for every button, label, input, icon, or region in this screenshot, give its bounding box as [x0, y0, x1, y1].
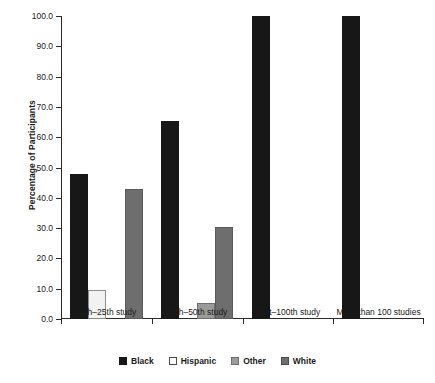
bar-white	[215, 227, 233, 319]
y-tick-label: 90.0	[36, 42, 53, 51]
bar-black	[70, 174, 88, 319]
y-tick-label: 0.0	[41, 315, 53, 324]
x-tick-label: More than 100 studies	[337, 307, 421, 317]
x-group-separator	[152, 319, 153, 324]
y-tick-label: 20.0	[36, 254, 53, 263]
bar-black	[161, 121, 179, 319]
y-tick-label: 80.0	[36, 72, 53, 81]
x-tick-label: 11th–25th study	[76, 307, 136, 317]
y-tick-label: 60.0	[36, 133, 53, 142]
y-tick-label: 70.0	[36, 103, 53, 112]
swatch-black-icon	[119, 357, 127, 365]
x-axis-right-cap	[423, 319, 424, 324]
legend-item-hispanic[interactable]: Hispanic	[169, 356, 216, 366]
x-tick-label: 51st–100th study	[256, 307, 321, 317]
legend-label: Hispanic	[181, 356, 216, 366]
x-group-separator	[243, 319, 244, 324]
legend-label: Other	[243, 356, 266, 366]
x-tick-label: 26th–50th study	[167, 307, 228, 317]
y-tick	[56, 319, 61, 320]
bar-group	[61, 16, 152, 319]
plot-area: 0.010.020.030.040.050.060.070.080.090.01…	[61, 16, 424, 319]
chart-legend: BlackHispanicOtherWhite	[0, 356, 435, 366]
swatch-other-icon	[231, 357, 239, 365]
bar-chart: Percentage of Participants 0.010.020.030…	[0, 0, 435, 383]
y-tick-label: 50.0	[36, 163, 53, 172]
bar-black	[252, 16, 270, 319]
x-axis-left-cap	[61, 319, 62, 324]
bar-black	[342, 16, 360, 319]
y-axis-title: Percentage of Participants	[27, 75, 37, 235]
y-tick-label: 40.0	[36, 194, 53, 203]
y-tick-label: 30.0	[36, 224, 53, 233]
legend-item-other[interactable]: Other	[231, 356, 266, 366]
bar-group	[243, 16, 334, 319]
bar-group	[152, 16, 243, 319]
legend-label: Black	[131, 356, 154, 366]
bar-group	[333, 16, 424, 319]
y-tick-label: 100.0	[32, 12, 53, 21]
x-group-separator	[333, 319, 334, 324]
swatch-hispanic-icon	[169, 357, 177, 365]
legend-item-white[interactable]: White	[281, 356, 316, 366]
bar-white	[125, 189, 143, 319]
legend-label: White	[293, 356, 316, 366]
swatch-white-icon	[281, 357, 289, 365]
y-tick-label: 10.0	[36, 284, 53, 293]
legend-item-black[interactable]: Black	[119, 356, 154, 366]
